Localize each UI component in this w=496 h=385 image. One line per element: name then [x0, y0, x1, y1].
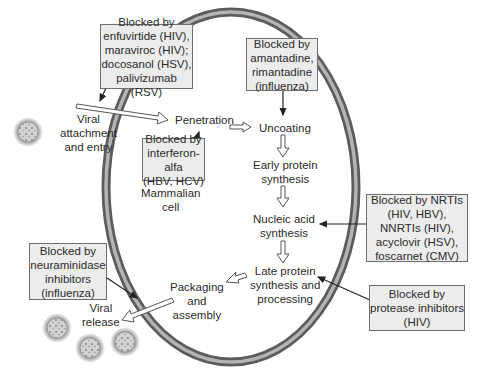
- box-line: foscarnet (CMV): [367, 249, 467, 263]
- box-line: interferon-alfa: [143, 146, 204, 174]
- virion-icon: [75, 333, 105, 363]
- box-line: protease inhibitors: [370, 301, 464, 315]
- box-line: Blocked by: [143, 132, 204, 146]
- box-line: (HIV): [370, 315, 464, 329]
- box-line: Blocked by: [30, 244, 106, 258]
- step-line: Viral: [60, 112, 117, 126]
- box-line: Blocked by: [370, 287, 464, 301]
- box-line: Blocked by: [101, 15, 192, 29]
- box-line: Blocked by NRTIs: [367, 193, 467, 207]
- step-nucleic-acid: Nucleic acid synthesis: [253, 212, 315, 240]
- step-line: Penetration: [175, 113, 234, 127]
- step-packaging: Packaging and assembly: [170, 280, 224, 322]
- step-line: processing: [250, 292, 320, 306]
- step-line: and: [170, 294, 224, 308]
- step-line: Packaging: [170, 280, 224, 294]
- box-line: docosanol (HSV),: [101, 57, 192, 71]
- step-release: Viral release: [82, 301, 120, 329]
- blocker-box-uncoating: Blocked by amantadine, rimantadine (infl…: [246, 38, 318, 91]
- step-line: Early protein: [253, 158, 318, 172]
- cell-label-line: Mammalian: [141, 186, 200, 200]
- virion-icon: [42, 313, 72, 343]
- box-line: NNRTIs (HIV),: [367, 221, 467, 235]
- step-line: synthesis and: [250, 278, 320, 292]
- box-line: palivizumab (RSV): [101, 71, 192, 99]
- step-line: and entry: [60, 140, 117, 154]
- step-line: synthesis: [253, 226, 315, 240]
- step-attachment: Viral attachment and entry: [60, 112, 117, 154]
- step-line: release: [82, 315, 120, 329]
- step-line: attachment: [60, 126, 117, 140]
- cell-label-line: cell: [141, 200, 200, 214]
- step-line: Uncoating: [259, 121, 311, 135]
- step-penetration: Penetration: [175, 113, 234, 127]
- virion-icon: [110, 327, 140, 357]
- box-line: (HIV, HBV),: [367, 207, 467, 221]
- blocker-box-attachment: Blocked by enfuvirtide (HIV), maraviroc …: [100, 24, 193, 89]
- step-line: Nucleic acid: [253, 212, 315, 226]
- box-line: neuraminidase: [30, 258, 106, 272]
- box-line: maraviroc (HIV);: [101, 43, 192, 57]
- virion-icon: [13, 117, 43, 147]
- step-line: synthesis: [253, 172, 318, 186]
- box-line: inhibitors: [30, 272, 106, 286]
- step-uncoating: Uncoating: [259, 121, 311, 135]
- blocker-box-nucleic-acid: Blocked by NRTIs (HIV, HBV), NNRTIs (HIV…: [366, 194, 468, 262]
- box-line: rimantadine: [247, 65, 317, 79]
- box-line: acyclovir (HSV),: [367, 235, 467, 249]
- step-late-protein: Late protein synthesis and processing: [250, 264, 320, 306]
- step-early-protein: Early protein synthesis: [253, 158, 318, 186]
- blocker-box-release: Blocked by neuraminidase inhibitors (inf…: [29, 243, 107, 300]
- box-line: (influenza): [30, 286, 106, 300]
- step-line: Viral: [82, 301, 120, 315]
- cell-label: Mammalian cell: [141, 186, 200, 214]
- box-line: Blocked by: [247, 37, 317, 51]
- box-line: amantadine,: [247, 51, 317, 65]
- step-line: assembly: [170, 308, 224, 322]
- box-line: enfuvirtide (HIV),: [101, 29, 192, 43]
- box-line: (influenza): [247, 79, 317, 93]
- blocker-box-penetration: Blocked by interferon-alfa (HBV, HCV): [142, 138, 205, 181]
- blocker-box-late-protein: Blocked by protease inhibitors (HIV): [369, 285, 465, 331]
- step-line: Late protein: [250, 264, 320, 278]
